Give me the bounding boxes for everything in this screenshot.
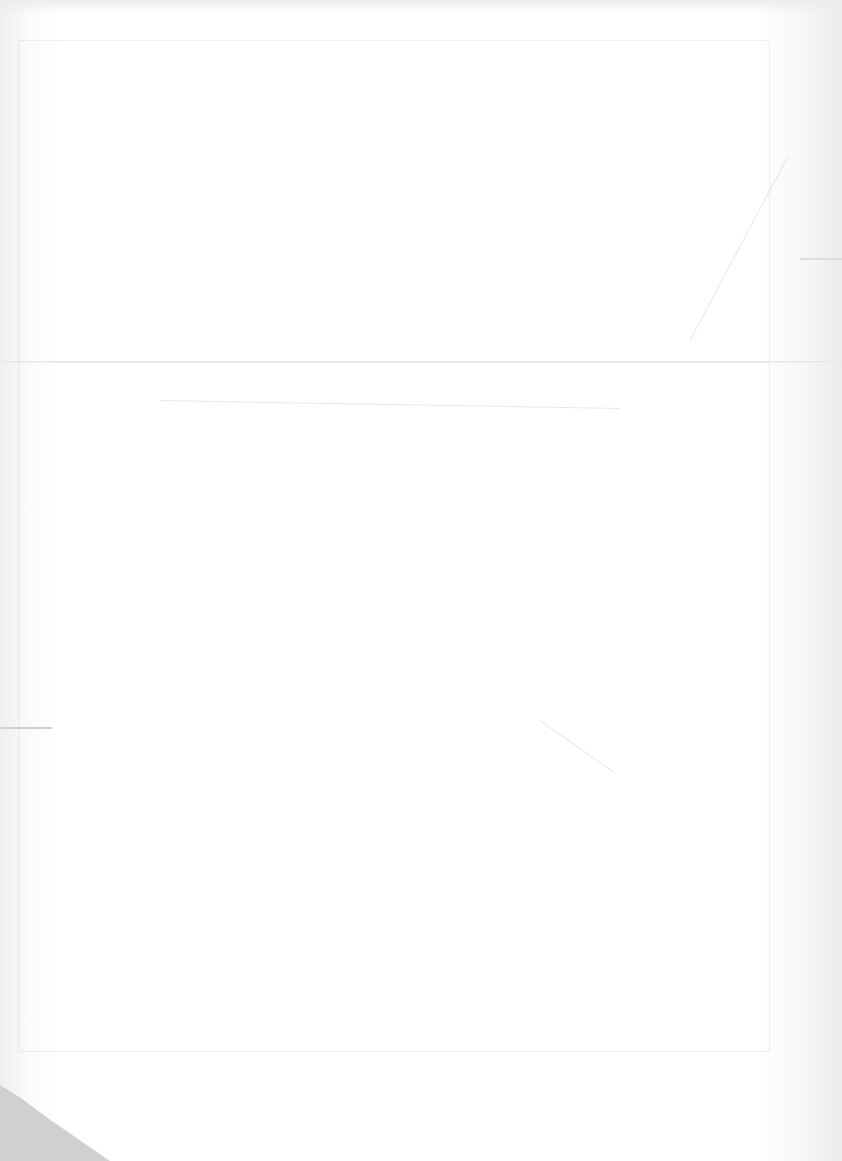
bleed-through-frame xyxy=(18,40,770,1052)
scanned-page xyxy=(0,0,842,1161)
scan-corner-shadow xyxy=(0,1085,110,1161)
page-top-edge xyxy=(0,0,842,14)
edge-mark-right xyxy=(800,258,842,260)
